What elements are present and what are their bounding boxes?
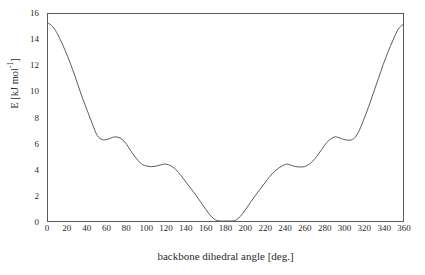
y-tick-label: 8 xyxy=(35,113,40,122)
x-axis-tick-labels: 0204060801001201401601802002202402602803… xyxy=(47,224,404,238)
y-tick-label: 12 xyxy=(30,61,39,70)
x-tick-label: 80 xyxy=(122,224,131,233)
x-tick-label: 360 xyxy=(397,224,411,233)
y-tick-label: 2 xyxy=(35,191,40,200)
energy-profile-curve xyxy=(48,23,403,221)
y-tick-label: 0 xyxy=(35,218,40,227)
x-tick-label: 120 xyxy=(159,224,173,233)
x-tick-label: 300 xyxy=(338,224,352,233)
x-tick-label: 260 xyxy=(298,224,312,233)
x-tick-label: 180 xyxy=(219,224,233,233)
plot-area xyxy=(47,13,404,222)
y-tick-label: 16 xyxy=(30,9,39,18)
y-tick-label: 6 xyxy=(35,139,40,148)
chart-figure: E [kJ mol-1] 0246810121416 0204060801001… xyxy=(0,0,425,275)
y-tick-label: 14 xyxy=(30,35,39,44)
x-tick-label: 160 xyxy=(199,224,213,233)
x-tick-label: 20 xyxy=(62,224,71,233)
x-tick-label: 340 xyxy=(377,224,391,233)
x-tick-label: 280 xyxy=(318,224,332,233)
x-tick-label: 240 xyxy=(278,224,292,233)
data-curve-svg xyxy=(48,14,403,221)
x-tick-label: 200 xyxy=(239,224,253,233)
x-tick-label: 40 xyxy=(82,224,91,233)
y-tick-label: 10 xyxy=(30,87,39,96)
x-tick-label: 60 xyxy=(102,224,111,233)
x-tick-label: 320 xyxy=(358,224,372,233)
x-tick-label: 220 xyxy=(258,224,272,233)
x-axis-title: backbone dihedral angle [deg.] xyxy=(47,250,404,262)
y-tick-label: 4 xyxy=(35,165,40,174)
x-tick-label: 0 xyxy=(45,224,50,233)
x-tick-label: 100 xyxy=(139,224,153,233)
y-axis-tick-labels: 0246810121416 xyxy=(0,13,43,222)
x-tick-label: 140 xyxy=(179,224,193,233)
